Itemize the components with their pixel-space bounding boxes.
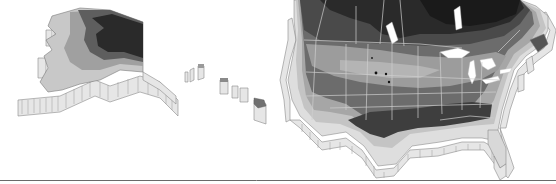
hawaii-region (185, 64, 266, 124)
hardiness-zone-map (0, 0, 556, 184)
contiguous-us-canada-region (280, 0, 556, 180)
alaska-region (18, 8, 178, 116)
